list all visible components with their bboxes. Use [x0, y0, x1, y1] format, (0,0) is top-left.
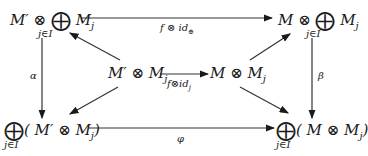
label-subscript: ⊕ [188, 28, 194, 36]
label-right-arrow: β [318, 70, 324, 81]
node-text: M′ ⊗ M [108, 64, 164, 82]
label-bottom-arrow: φ [177, 133, 184, 144]
node-text: ) [94, 121, 100, 139]
label-middle-arrow: f⊗idj [167, 78, 191, 89]
node-center-left: M′ ⊗ Mj [108, 66, 167, 81]
node-top-right: M ⊗ ⨁ Mj [278, 8, 359, 28]
node-text: M [71, 11, 91, 29]
arrow-diag-center-right-to-top-right [250, 34, 290, 60]
label-text: f⊗id [167, 78, 189, 89]
direct-sum-symbol: ⨁ [51, 8, 71, 32]
node-text: M ⊗ [278, 11, 315, 29]
index-top-right: j∈I [306, 28, 320, 39]
arrow-diag-center-right-to-bottom-right [240, 87, 288, 113]
index-bottom-right: j∈I [276, 139, 290, 150]
node-center-right: M ⊗ Mj [210, 66, 266, 81]
label-subscript: j [189, 84, 191, 92]
subscript: j [356, 20, 359, 31]
node-bottom-right: ⨁( M ⊗ Mj) [276, 118, 368, 138]
subscript: j [359, 130, 362, 141]
node-text: M ⊗ M [210, 64, 263, 82]
node-text: M [335, 11, 355, 29]
node-bottom-left: ⨁( M′ ⊗ Mj) [4, 118, 100, 138]
label-text: f ⊗ id [160, 22, 188, 33]
node-top-left: M′ ⊗ ⨁ Mj [10, 8, 94, 28]
node-text: ( M′ ⊗ M [24, 121, 91, 139]
subscript: j [91, 20, 94, 31]
subscript: j [91, 130, 94, 141]
node-text: M′ ⊗ [10, 11, 51, 29]
subscript: j [263, 73, 266, 84]
label-top-arrow: f ⊗ id⊕ [160, 22, 194, 33]
arrow-diag-center-left-to-top-left [70, 33, 120, 60]
node-text: ( M ⊗ M [296, 121, 359, 139]
index-bottom-left: j∈I [4, 139, 18, 150]
arrow-diag-center-left-to-bottom-left [70, 87, 118, 114]
node-text: ) [363, 121, 368, 139]
index-top-left: j∈I [38, 28, 52, 39]
label-left-arrow: α [30, 70, 37, 81]
